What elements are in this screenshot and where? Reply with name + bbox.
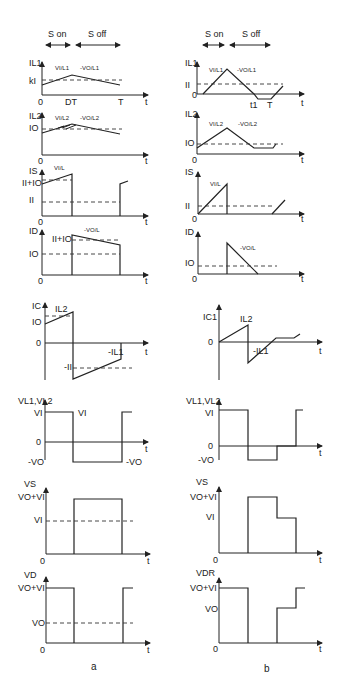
svg-text:VL1,VL2: VL1,VL2 — [186, 396, 221, 406]
svg-text:DT: DT — [65, 97, 77, 107]
chart-a-id: ID II+IO IO -VO/L 0 t — [29, 226, 148, 286]
svg-text:VI/L1: VI/L1 — [55, 65, 70, 71]
svg-text:-IL1: -IL1 — [108, 347, 124, 357]
svg-text:0: 0 — [38, 276, 43, 286]
svg-text:t: t — [145, 217, 148, 227]
svg-text:0: 0 — [38, 217, 43, 227]
svg-text:0: 0 — [38, 156, 43, 166]
svg-text:-VO/L: -VO/L — [240, 245, 256, 251]
svg-text:t1: t1 — [250, 100, 258, 110]
svg-text:-IL1: -IL1 — [253, 346, 269, 356]
svg-text:0: 0 — [192, 214, 197, 224]
chart-b-il2: IL2 IO VI/L2 -VO/L2 0 t — [185, 109, 304, 165]
svg-text:VO+VI: VO+VI — [18, 583, 45, 593]
svg-text:IL1: IL1 — [29, 58, 42, 68]
svg-text:II+IO: II+IO — [52, 234, 72, 244]
svg-text:T: T — [267, 100, 273, 110]
svg-text:t: t — [145, 276, 148, 286]
svg-text:IO: IO — [29, 249, 39, 259]
svg-text:ID: ID — [185, 227, 195, 237]
chart-a-vs: VS VO+VI VI 0 t — [18, 479, 150, 566]
chart-b-id: ID IO -VO/L 0 t — [185, 227, 304, 284]
svg-text:IS: IS — [29, 166, 38, 176]
svg-text:II: II — [185, 80, 190, 90]
svg-text:t: t — [319, 448, 322, 458]
svg-text:VI: VI — [206, 512, 215, 522]
svg-text:VI/L: VI/L — [210, 181, 221, 187]
svg-text:II+IO: II+IO — [22, 178, 42, 188]
svg-text:VS: VS — [196, 477, 208, 487]
svg-text:0: 0 — [192, 90, 197, 100]
svg-text:VL1,VL2: VL1,VL2 — [18, 396, 53, 406]
svg-text:IO: IO — [32, 317, 42, 327]
chart-a-il1: IL1 kI VI/L1 -VO/L1 0 DT T t — [29, 58, 148, 107]
svg-text:VO+VI: VO+VI — [190, 583, 217, 593]
svg-text:-VO/L2: -VO/L2 — [238, 121, 258, 127]
svg-text:t: t — [145, 444, 148, 454]
svg-text:VI: VI — [205, 408, 214, 418]
svg-text:VDR: VDR — [196, 568, 216, 578]
svg-text:IS: IS — [185, 167, 194, 177]
svg-text:0: 0 — [38, 97, 43, 107]
svg-text:IL1: IL1 — [185, 58, 198, 68]
chart-a-il2: IL2 IO VI/L2 -VO/L2 0 t — [29, 111, 148, 166]
svg-text:kI: kI — [29, 76, 36, 86]
svg-text:T: T — [118, 97, 124, 107]
svg-text:IO: IO — [29, 123, 39, 133]
svg-text:IO: IO — [185, 258, 195, 268]
svg-text:0: 0 — [213, 644, 218, 654]
svg-text:t: t — [147, 556, 150, 566]
svg-text:VI: VI — [34, 408, 43, 418]
s-on-label: S on — [48, 29, 67, 39]
svg-text:t: t — [301, 274, 304, 284]
chart-a-vl: VL1,VL2 VI VI -VO -VO 0 t — [18, 396, 148, 467]
svg-text:IL2: IL2 — [55, 304, 68, 314]
svg-text:t: t — [145, 97, 148, 107]
chart-b-ic: IC1 IL2 -IL1 0 t — [203, 305, 322, 380]
svg-text:t: t — [145, 156, 148, 166]
svg-text:t: t — [145, 347, 148, 357]
chart-b-is: IS II VI/L 0 t — [185, 167, 304, 224]
svg-text:IO: IO — [185, 138, 195, 148]
waveform-diagram: S on S off IL1 kI VI/L1 -VO/L1 0 DT T t … — [0, 0, 342, 698]
chart-b-il1: IL1 II VI/L1 -VO/L1 0 t1 T t — [185, 58, 304, 110]
svg-text:-VO/L2: -VO/L2 — [80, 115, 100, 121]
svg-text:VO: VO — [205, 604, 218, 614]
svg-text:VI: VI — [78, 408, 87, 418]
svg-text:-VO: -VO — [198, 455, 214, 465]
svg-text:VS: VS — [24, 479, 36, 489]
s-off-label-b: S off — [242, 29, 261, 39]
svg-text:VO+VI: VO+VI — [18, 492, 45, 502]
svg-text:0: 0 — [213, 555, 218, 565]
svg-text:VI: VI — [34, 515, 43, 525]
svg-text:-VO/L1: -VO/L1 — [80, 65, 100, 71]
svg-text:-II: -II — [64, 362, 72, 372]
svg-text:0: 0 — [208, 337, 213, 347]
caption-b: b — [264, 663, 270, 674]
svg-text:t: t — [319, 555, 322, 565]
svg-text:ID: ID — [29, 226, 39, 236]
column-a: S on S off IL1 kI VI/L1 -VO/L1 0 DT T t … — [18, 29, 150, 672]
svg-text:VI/L2: VI/L2 — [209, 121, 224, 127]
svg-text:IL2: IL2 — [185, 109, 198, 119]
svg-text:0: 0 — [192, 274, 197, 284]
svg-text:VD: VD — [24, 570, 37, 580]
chart-a-is: IS II+IO II VI/L 0 t — [22, 165, 148, 227]
svg-text:t: t — [147, 645, 150, 655]
svg-text:0: 0 — [192, 155, 197, 165]
svg-text:0: 0 — [40, 556, 45, 566]
svg-text:VI/L2: VI/L2 — [55, 115, 70, 121]
chart-a-vd: VD VO+VI VO 0 t — [18, 570, 150, 655]
svg-text:t: t — [301, 155, 304, 165]
caption-a: a — [91, 661, 97, 672]
svg-text:VI/L: VI/L — [54, 165, 65, 171]
svg-text:t: t — [301, 214, 304, 224]
svg-text:t: t — [301, 98, 304, 108]
chart-b-vd: VDR VO+VI VO 0 t — [190, 568, 322, 654]
s-off-label: S off — [88, 29, 107, 39]
svg-text:0: 0 — [208, 441, 213, 451]
chart-a-ic: IC IL2 IO -II -IL1 0 t — [32, 301, 148, 380]
svg-text:-VO/L: -VO/L — [84, 227, 100, 233]
chart-b-vl: VL1,VL2 VI -VO 0 t — [186, 396, 322, 465]
svg-text:II: II — [185, 201, 190, 211]
